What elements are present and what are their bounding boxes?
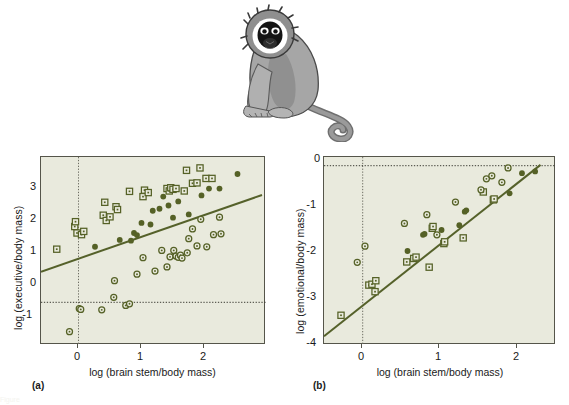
panel-a-xtick-1: 1	[131, 350, 149, 362]
panel-b-xtickmark-2	[516, 344, 517, 348]
data-point-dot	[199, 167, 201, 169]
panel-a-xlabel: log (brain stem/body mass)	[45, 366, 260, 378]
data-point-filled-circle	[235, 171, 241, 177]
data-point-dot	[188, 238, 190, 240]
data-point-dot	[113, 296, 115, 298]
data-point-filled-circle	[519, 170, 525, 176]
data-point-dot	[186, 169, 188, 171]
panel-a-ytick-0: 0	[18, 276, 36, 288]
panel-b-ytick-0: 0	[302, 152, 320, 164]
data-point-filled-circle	[199, 193, 205, 199]
panel-b-ytick-neg3: -3	[298, 290, 316, 302]
data-point-filled-circle	[92, 244, 98, 250]
data-point-dot	[109, 216, 111, 218]
data-point-filled-circle	[148, 222, 154, 228]
data-point-dot	[206, 246, 208, 248]
data-point-dot	[462, 237, 464, 239]
data-point-filled-circle	[166, 203, 172, 209]
data-point-filled-circle	[128, 238, 134, 244]
data-point-filled-circle	[405, 248, 411, 254]
data-point-dot	[406, 261, 408, 263]
data-point-dot	[142, 196, 144, 198]
data-point-dot	[74, 226, 76, 228]
panel-a-xtickmark-1	[140, 344, 141, 348]
panel-a-xtick-0: 0	[68, 350, 86, 362]
data-point-filled-circle	[157, 206, 163, 212]
data-point-dot	[205, 178, 207, 180]
panel-a-key: (a)	[32, 380, 44, 391]
data-point-dot	[219, 216, 221, 218]
data-point-dot	[426, 214, 428, 216]
data-point-dot	[181, 257, 183, 259]
data-point-dot	[83, 231, 85, 233]
data-point-dot	[161, 249, 163, 251]
data-point-dot	[364, 245, 366, 247]
data-point-dot	[432, 226, 434, 228]
data-point-filled-circle	[117, 237, 123, 243]
data-point-dot	[220, 233, 222, 235]
data-point-filled-circle	[170, 215, 176, 221]
panel-b-xtick-2: 2	[507, 350, 525, 362]
data-point-dot	[142, 257, 144, 259]
data-point-filled-circle	[422, 231, 428, 237]
panel-b-xtickmark-0	[361, 344, 362, 348]
data-point-dot	[129, 303, 131, 305]
data-point-dot	[340, 314, 342, 316]
panel-b-fit-line	[324, 165, 541, 336]
data-point-dot	[192, 182, 194, 184]
data-point-dot	[501, 181, 503, 183]
panel-b-key: (b)	[313, 380, 326, 391]
data-point-dot	[374, 291, 376, 293]
data-point-filled-circle	[463, 207, 469, 213]
panel-b-ytick-neg1: -1	[298, 198, 316, 210]
data-point-dot	[200, 218, 202, 220]
data-point-dot	[507, 167, 509, 169]
data-point-dot	[104, 201, 106, 203]
panel-a-scatter	[41, 157, 266, 345]
data-point-dot	[186, 252, 188, 254]
data-point-dot	[444, 241, 446, 243]
monkey-svg	[212, 2, 362, 142]
panel-b-xtickmark-1	[438, 344, 439, 348]
figure-root: log (executive/body mass) 3 2 1 0 -1 0 1…	[0, 0, 569, 405]
data-point-dot	[101, 309, 103, 311]
panel-a-plot-area	[40, 156, 265, 344]
figure-caption-partial: Figure	[0, 396, 569, 405]
data-point-dot	[129, 191, 131, 193]
data-point-dot	[192, 228, 194, 230]
data-point-filled-circle	[507, 190, 513, 196]
panel-a-xtick-2: 2	[194, 350, 212, 362]
data-point-dot	[183, 190, 185, 192]
data-point-dot	[436, 234, 438, 236]
panel-a-points	[54, 165, 241, 335]
panel-a-ytick-3: 3	[18, 180, 36, 192]
data-point-filled-circle	[175, 199, 181, 205]
data-point-dot	[428, 266, 430, 268]
data-point-dot	[102, 214, 104, 216]
data-point-dot	[196, 245, 198, 247]
panel-a-xtickmark-2	[203, 344, 204, 348]
data-point-dot	[375, 280, 377, 282]
data-point-dot	[114, 280, 116, 282]
data-point-dot	[455, 201, 457, 203]
panel-a-ytick-2: 2	[18, 212, 36, 224]
data-point-dot	[75, 221, 77, 223]
data-point-dot	[356, 261, 358, 263]
data-point-filled-circle	[532, 169, 538, 175]
data-point-filled-circle	[217, 186, 223, 192]
data-point-filled-circle	[456, 222, 462, 228]
panel-b-ytick-neg2: -2	[298, 244, 316, 256]
panel-b-xlabel: log (brain stem/body mass)	[330, 366, 550, 378]
data-point-dot	[69, 331, 71, 333]
panel-b-xtick-1: 1	[429, 350, 447, 362]
data-point-dot	[154, 270, 156, 272]
panel-b-scatter	[324, 157, 556, 345]
panel-b-ylabel: log (emotional/body mass)	[294, 208, 306, 334]
data-point-dot	[76, 232, 78, 234]
data-point-filled-circle	[139, 220, 145, 226]
panel-b-plot-area	[323, 156, 555, 344]
data-point-filled-circle	[186, 212, 192, 218]
data-point-dot	[415, 256, 417, 258]
data-point-dot	[169, 256, 171, 258]
data-point-dot	[173, 249, 175, 251]
